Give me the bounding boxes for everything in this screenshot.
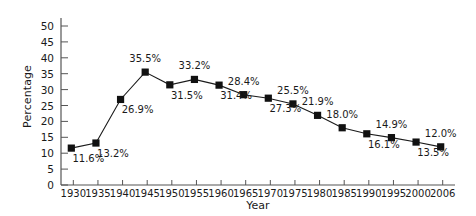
data-point-label: 26.9%	[119, 105, 157, 115]
data-point-label: 18.0%	[323, 110, 361, 120]
y-tick-label: 25	[28, 101, 54, 112]
data-point-marker	[339, 124, 346, 131]
y-tick-label: 30	[28, 85, 54, 96]
data-point-marker	[314, 112, 321, 119]
data-point-marker	[215, 82, 222, 89]
y-tick-label: 20	[28, 116, 54, 127]
data-point-label: 13.2%	[94, 149, 132, 159]
plot-area	[0, 0, 476, 216]
data-point-marker	[363, 130, 370, 137]
data-point-marker	[265, 95, 272, 102]
y-tick-label: 5	[28, 164, 54, 175]
data-point-label: 14.9%	[372, 120, 410, 130]
y-tick-label: 45	[28, 37, 54, 48]
x-tick-label: 2006	[427, 189, 459, 199]
y-tick-label: 40	[28, 53, 54, 64]
data-point-label: 16.1%	[365, 140, 403, 150]
data-point-label: 28.4%	[225, 77, 263, 87]
y-tick-label: 50	[28, 21, 54, 32]
data-point-marker	[191, 76, 198, 83]
line-chart: Percentage Year 05101520253035404550 193…	[0, 0, 476, 216]
data-point-label: 25.5%	[274, 86, 312, 96]
data-point-label: 31.4%	[217, 91, 255, 101]
y-tick-label: 0	[28, 180, 54, 191]
data-point-marker	[68, 145, 75, 152]
data-point-label: 21.9%	[299, 97, 337, 107]
data-point-label: 12.0%	[422, 129, 460, 139]
data-point-label: 33.2%	[175, 61, 213, 71]
data-point-label: 35.5%	[126, 54, 164, 64]
y-tick-label: 10	[28, 148, 54, 159]
data-point-label: 13.5%	[414, 148, 452, 158]
y-tick-label: 15	[28, 132, 54, 143]
data-point-marker	[117, 96, 124, 103]
data-point-marker	[166, 81, 173, 88]
data-point-marker	[92, 139, 99, 146]
data-point-marker	[142, 69, 149, 76]
data-point-marker	[412, 138, 419, 145]
y-tick-label: 35	[28, 69, 54, 80]
data-point-label: 31.5%	[168, 91, 206, 101]
